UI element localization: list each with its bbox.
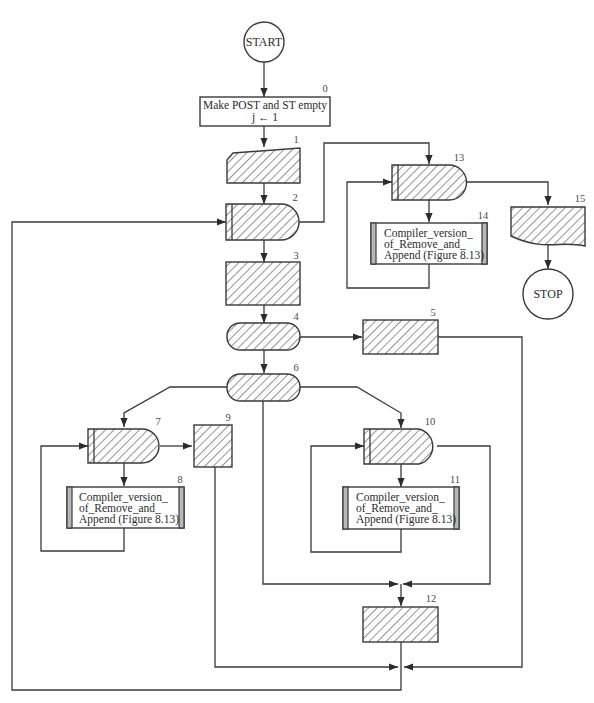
node-4-number: 4 [293, 311, 299, 322]
node-0-line2: j ← 1 [251, 111, 278, 124]
document-shape [511, 207, 585, 246]
edge-13-15 [466, 182, 548, 205]
node-2: 2 [226, 192, 299, 240]
left-bar [67, 487, 72, 528]
loop-decision-shape [364, 429, 433, 464]
start-label: START [246, 35, 283, 49]
node-9: 9 [194, 412, 232, 467]
node-8: Compiler_version_ of_Remove_and_ Append … [67, 474, 184, 528]
left-bar [371, 223, 376, 264]
loop-decision-shape [392, 165, 467, 200]
node-1-number: 1 [293, 134, 298, 145]
node-8-line3: Append (Figure 8.13) [79, 513, 179, 526]
process-box [194, 425, 232, 467]
node-10: 10 [364, 416, 435, 464]
left-bar [343, 487, 348, 529]
rounded-shape [227, 374, 300, 401]
node-8-number: 8 [177, 474, 182, 485]
node-9-number: 9 [225, 412, 230, 423]
right-bar [179, 487, 184, 528]
node-12-number: 12 [426, 593, 437, 604]
process-box [226, 262, 300, 305]
start-terminal: START [244, 22, 284, 62]
node-13-number: 13 [454, 152, 465, 163]
node-11-line3: Append (Figure 8.13) [356, 513, 456, 526]
node-14-number: 14 [478, 210, 489, 221]
flowchart: START Make POST and ST empty j ← 1 0 1 2… [0, 0, 594, 703]
node-10-number: 10 [425, 416, 436, 427]
node-11-number: 11 [450, 474, 460, 485]
rounded-shape [227, 323, 300, 350]
process-box [363, 607, 438, 642]
node-14: Compiler_version_ of_Remove_and_ Append … [371, 210, 489, 264]
stop-terminal: STOP [523, 269, 573, 319]
node-0: Make POST and ST empty j ← 1 0 [200, 83, 330, 126]
node-5: 5 [363, 307, 438, 354]
node-3-number: 3 [293, 250, 298, 261]
node-6-number: 6 [293, 362, 298, 373]
edge-6-10 [300, 387, 401, 428]
process-box [363, 320, 438, 354]
loop-decision-shape [226, 204, 299, 240]
node-0-number: 0 [322, 83, 327, 94]
node-7-number: 7 [155, 416, 160, 427]
manual-input-shape [227, 148, 300, 183]
node-15-number: 15 [575, 193, 586, 204]
node-14-line3: Append (Figure 8.13) [384, 249, 484, 262]
node-2-number: 2 [292, 192, 297, 203]
loop-decision-shape [88, 429, 159, 463]
node-5-number: 5 [430, 307, 435, 318]
node-3: 3 [226, 250, 300, 305]
edge-6-7 [124, 387, 227, 427]
stop-label: STOP [533, 287, 562, 301]
